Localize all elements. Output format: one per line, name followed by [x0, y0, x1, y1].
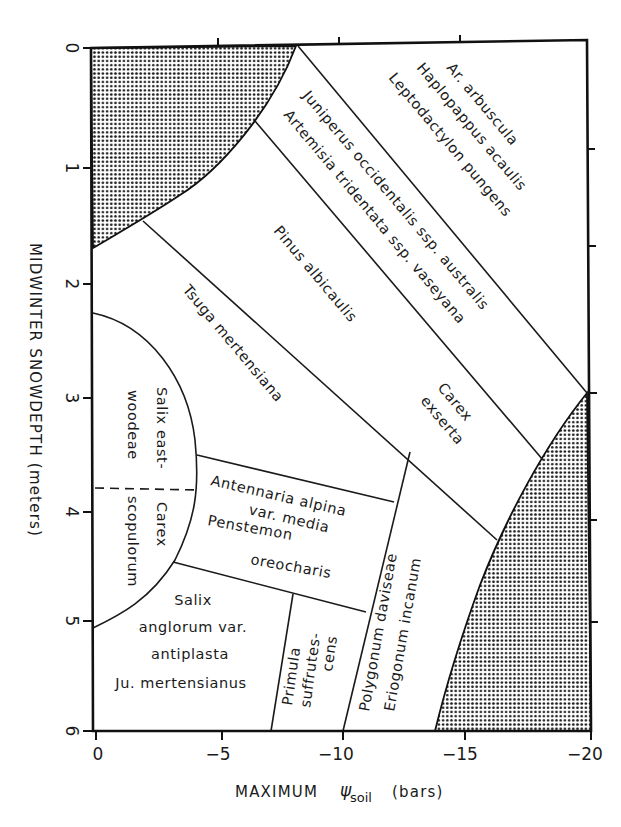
y-tick-6: 6 — [62, 726, 82, 737]
y-tick-2: 2 — [62, 279, 82, 290]
label-oreocharis: oreocharis — [249, 551, 332, 581]
y-tick-1: 1 — [62, 163, 82, 174]
shaded-region-upper-left — [91, 46, 296, 248]
label-pinus: Pinus albicaulis — [271, 223, 361, 326]
x-axis-title-sub: soil — [350, 790, 372, 805]
x-axis-title-main: MAXIMUM — [235, 783, 318, 801]
x-axis-ticks-bottom — [96, 731, 591, 740]
y-axis-title: MIDWINTER SNOWDEPTH (meters) — [26, 243, 44, 537]
x-axis-tick-labels: 0 −5 −10 −15 −20 — [93, 744, 603, 764]
label-antiplasta: antiplasta — [151, 646, 229, 662]
y-tick-4: 4 — [62, 507, 82, 518]
label-anglorum: anglorum var. — [139, 619, 248, 635]
niche-diagram: 0 1 2 3 4 5 6 0 −5 −10 −15 −20 MIDWINTER… — [0, 0, 621, 827]
label-salix-east: Salix east- — [154, 387, 170, 469]
x-tick-15: −15 — [442, 744, 478, 764]
label-salix: Salix — [174, 592, 212, 608]
x-tick-20: −20 — [567, 744, 603, 764]
x-axis-title-units: (bars) — [392, 783, 444, 801]
dashed-divider-salix-carex — [95, 488, 198, 490]
x-tick-0: 0 — [93, 744, 104, 764]
zone-label-salix-anglorum: Salix anglorum var. antiplasta Ju. merte… — [114, 592, 247, 691]
label-carex-scopulorum-2: scopulorum — [125, 496, 141, 587]
label-woodeae: woodeae — [125, 390, 141, 460]
y-tick-3: 3 — [62, 393, 82, 404]
label-carex-scopulorum-1: Carex — [154, 502, 170, 547]
y-tick-5: 5 — [62, 616, 82, 627]
y-tick-0: 0 — [62, 43, 82, 54]
zone-label-carex-scopulorum: Carex scopulorum — [125, 496, 170, 587]
zone-label-carex-exserta: Carex exserta — [418, 380, 476, 448]
label-tsuga: Tsuga mertensiana — [179, 281, 287, 405]
x-tick-10: −10 — [318, 744, 354, 764]
boundary-salix-arc — [93, 313, 197, 628]
label-ju-mertensianus: Ju. mertensianus — [114, 675, 247, 691]
zone-label-ar-arbuscula: Ar. arbuscula Haplopappus acaulis Leptod… — [386, 60, 530, 220]
x-axis-title: MAXIMUM ψ soil (bars) — [235, 780, 444, 805]
zone-label-primula: Primula suffrutes- cens — [279, 631, 340, 708]
x-tick-5: −5 — [205, 744, 230, 764]
zone-label-salix-eastwoodeae: Salix east- woodeae — [125, 387, 170, 469]
y-axis-tick-labels: 0 1 2 3 4 5 6 — [62, 43, 82, 737]
zone-label-antennaria: Antennaria alpina var. media Penstemon o… — [206, 472, 348, 581]
